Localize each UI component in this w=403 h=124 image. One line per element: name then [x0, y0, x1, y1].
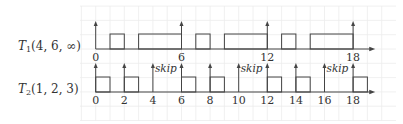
release-arrowhead-icon [94, 21, 98, 26]
execution-block [110, 34, 124, 49]
axis-arrowhead-icon [369, 47, 375, 51]
timelines: 061218024681012141618skipskipskip [92, 21, 375, 107]
execution-block [224, 34, 267, 49]
tick-label: 2 [121, 94, 128, 107]
execution-block [310, 34, 353, 49]
tick-label: 12 [260, 94, 274, 107]
skip-label: skip [241, 62, 263, 74]
execution-block [282, 34, 296, 49]
release-arrowhead-icon [122, 63, 126, 68]
release-arrowhead-icon [294, 63, 298, 68]
tick-label: 6 [178, 51, 185, 64]
tick-label: 14 [289, 94, 303, 107]
skip-label: skip [327, 62, 349, 74]
tick-label: 8 [207, 94, 214, 107]
tick-label: 4 [149, 94, 156, 107]
task-1-timeline: 061218 [92, 21, 375, 64]
axis-arrowhead-icon [369, 90, 375, 94]
release-arrowhead-icon [351, 21, 355, 26]
release-arrowhead-icon [208, 63, 212, 68]
tick-label: 10 [232, 94, 246, 107]
schedule-diagram: 061218024681012141618skipskipskip [0, 0, 403, 124]
tick-label: 0 [92, 51, 99, 64]
execution-block [96, 77, 110, 92]
tick-label: 18 [346, 94, 360, 107]
release-arrowhead-icon [265, 21, 269, 26]
execution-block [196, 34, 210, 49]
execution-block [124, 77, 138, 92]
execution-block [267, 77, 281, 92]
release-arrowhead-icon [180, 21, 184, 26]
tick-label: 6 [178, 94, 185, 107]
execution-block [139, 34, 182, 49]
execution-block [296, 77, 310, 92]
execution-block [182, 77, 196, 92]
skip-label: skip [155, 62, 177, 74]
tick-label: 16 [318, 94, 332, 107]
execution-block [210, 77, 224, 92]
task-2-timeline: 024681012141618skipskipskip [92, 62, 375, 107]
tick-label: 0 [92, 94, 99, 107]
execution-block [353, 77, 367, 92]
